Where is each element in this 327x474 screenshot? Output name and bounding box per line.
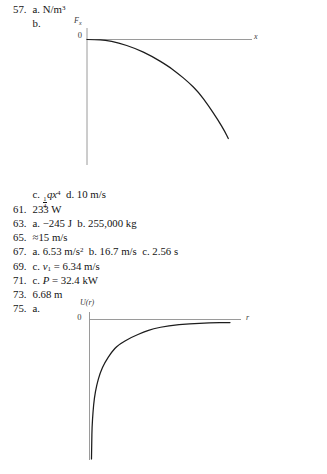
answers-page: 57.a. N/m3b.c. 14qx4 d. 10 m/s61.233 W63… — [0, 0, 327, 474]
answer-text: c. 14qx4 d. 10 m/s — [33, 188, 106, 200]
ur-vs-r-graph: U(r)0r — [60, 296, 275, 472]
answer-line: 65.≈15 m/s — [13, 230, 68, 244]
curve — [91, 323, 230, 459]
answer-number: 75. — [13, 301, 33, 315]
answer-text: c. v1 = 6.34 m/s — [33, 260, 100, 272]
answer-number: 61. — [13, 202, 33, 216]
answer-line: 75.a. — [13, 301, 40, 315]
answer-line: b. — [13, 16, 41, 30]
answer-number: 67. — [13, 244, 33, 258]
answer-line: 63.a. −245 J b. 255,000 kg — [13, 216, 137, 230]
answer-line: 57.a. N/m3 — [13, 2, 65, 16]
graph-canvas — [60, 296, 275, 472]
answer-number: 57. — [13, 2, 33, 16]
fx-vs-x-graph: Fx0x — [60, 14, 275, 172]
answer-line: 73.6.68 m — [13, 287, 63, 301]
answer-text: a. — [33, 302, 41, 314]
answer-text: a. −245 J b. 255,000 kg — [33, 217, 137, 229]
answer-number: 63. — [13, 216, 33, 230]
answer-text: c. P = 32.4 kW — [33, 274, 98, 286]
answer-line: 61.233 W — [13, 202, 61, 216]
answer-line: 67.a. 6.53 m/s2 b. 16.7 m/s c. 2.56 s — [13, 244, 178, 258]
answer-number: 65. — [13, 230, 33, 244]
answer-text: a. 6.53 m/s2 b. 16.7 m/s c. 2.56 s — [33, 245, 179, 257]
answer-number: 71. — [13, 273, 33, 287]
answer-number: 73. — [13, 287, 33, 301]
answer-text: ≈15 m/s — [33, 231, 68, 243]
answer-line: 71.c. P = 32.4 kW — [13, 273, 98, 287]
answer-line: 69.c. v1 = 6.34 m/s — [13, 259, 100, 273]
graph-canvas — [60, 14, 275, 172]
curve — [87, 40, 228, 139]
answer-number: 69. — [13, 259, 33, 273]
answer-text: b. — [33, 17, 41, 29]
answer-text: 233 W — [33, 203, 62, 215]
answer-text: 6.68 m — [33, 288, 63, 300]
